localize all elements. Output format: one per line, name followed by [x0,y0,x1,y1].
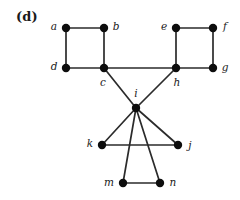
graph-node-a [62,24,70,32]
figure-panel: (d) abcdefghijkmn [0,0,240,200]
node-label-a: a [51,20,57,32]
node-label-c: c [100,76,106,88]
node-label-n: n [170,176,177,188]
node-label-i: i [134,87,137,99]
graph-node-h [172,64,180,72]
edge-layer [66,28,213,183]
graph-node-m [119,179,127,187]
graph-node-b [100,24,108,32]
graph-node-j [174,141,182,149]
graph-node-n [156,179,164,187]
graph-node-c [100,64,108,72]
graph-node-f [209,24,217,32]
graph-node-e [172,24,180,32]
node-label-b: b [113,20,120,32]
node-label-f: f [222,20,229,32]
node-label-e: e [161,20,167,32]
node-label-g: g [222,61,229,73]
node-label-h: h [174,76,181,88]
graph-node-d [62,64,70,72]
node-label-j: j [186,139,192,151]
graph-diagram: abcdefghijkmn [0,0,240,200]
node-label-m: m [104,176,114,188]
edge-h-i [136,68,176,108]
graph-node-k [98,141,106,149]
graph-node-g [209,64,217,72]
node-label-d: d [51,60,58,72]
edge-c-i [104,68,136,108]
graph-node-i [132,104,140,112]
node-label-k: k [87,137,93,149]
